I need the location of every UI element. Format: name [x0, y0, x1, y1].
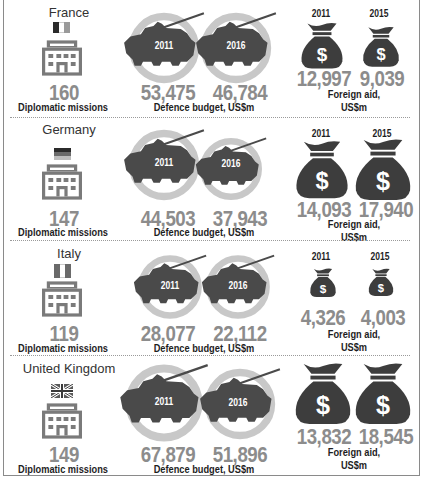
country-section-germany: Germany 147 Diplomatic missions 2011 201…: [4, 118, 420, 240]
aid-label-line1: Foreign aid,: [319, 218, 389, 230]
aid-year-2011: 2011: [304, 8, 338, 19]
italy-flag-icon: [54, 264, 71, 278]
diplomatic-missions-label: Diplomatic missions: [15, 463, 112, 475]
aid-label-line2: US$m: [319, 459, 389, 471]
money-bag-2011-icon: [294, 362, 352, 426]
money-bag-2015-icon: [368, 268, 394, 297]
defence-year-2011: 2011: [147, 157, 181, 168]
country-section-france: France 160 Diplomatic missions 2011 2016…: [4, 0, 420, 118]
defence-year-2016: 2016: [214, 158, 248, 169]
aid-year-2011: 2011: [304, 251, 338, 262]
defence-year-2016: 2016: [219, 40, 253, 51]
money-bag-2015-icon: [354, 362, 412, 426]
diplomatic-missions-label: Diplomatic missions: [15, 101, 112, 113]
defence-year-2016: 2016: [221, 397, 255, 408]
aid-label-line2: US$m: [319, 101, 389, 113]
france-flag-icon: [53, 22, 70, 33]
defence-year-2011: 2011: [147, 40, 181, 51]
building-icon: [42, 160, 82, 204]
money-bag-2015-icon: [354, 138, 412, 202]
money-bag-2011-icon: [294, 140, 350, 200]
aid-label-line1: Foreign aid,: [319, 446, 389, 458]
money-bag-2011-icon: [309, 268, 337, 298]
defence-year-2011: 2011: [153, 280, 187, 291]
country-name: Italy: [14, 246, 124, 261]
defence-budget-label: Defence budget, US$m: [151, 226, 257, 238]
building-icon: [42, 277, 82, 321]
defence-budget-label: Defence budget, US$m: [151, 101, 257, 113]
aid-label-line1: Foreign aid,: [319, 328, 389, 340]
uk-flag-icon: [51, 384, 73, 398]
tank-2016-icon: [194, 136, 268, 202]
defence-budget-label: Defence budget, US$m: [151, 342, 257, 354]
aid-year-2011: 2011: [304, 128, 338, 139]
aid-year-2015: 2015: [363, 251, 397, 262]
money-bag-2015-icon: [362, 26, 400, 68]
aid-year-2015: 2015: [362, 8, 396, 19]
diplomatic-missions-label: Diplomatic missions: [15, 342, 112, 354]
country-name: United Kingdom: [14, 361, 124, 376]
defence-year-2011: 2011: [147, 396, 181, 407]
germany-flag-icon: [54, 148, 71, 160]
country-section-italy: Italy 119 Diplomatic missions 2011 2016 …: [4, 241, 420, 355]
defence-year-2016: 2016: [221, 280, 255, 291]
aid-label-line2: US$m: [319, 341, 389, 353]
aid-label-line1: Foreign aid,: [319, 88, 389, 100]
building-icon: [42, 399, 82, 443]
money-bag-2011-icon: [300, 22, 344, 70]
building-icon: [42, 36, 82, 80]
diplomatic-missions-label: Diplomatic missions: [15, 226, 112, 238]
country-name: Germany: [14, 122, 124, 137]
country-section-united-kingdom: United Kingdom 149 Diplomatic missions 2…: [4, 356, 420, 478]
country-name: France: [14, 5, 124, 20]
defence-budget-label: Defence budget, US$m: [151, 463, 257, 475]
